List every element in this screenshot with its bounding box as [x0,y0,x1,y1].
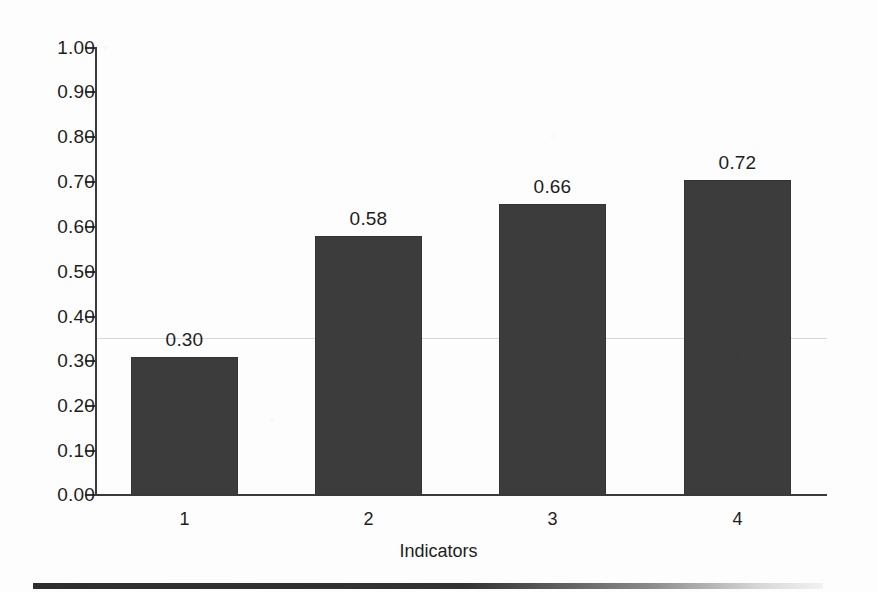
bar-1[interactable] [131,357,238,495]
y-tick-label: 0.00 [23,485,95,504]
bottom-rule [33,583,823,589]
bar-value-label-3: 0.66 [499,177,606,196]
bar-value-label-1: 0.30 [131,330,238,349]
y-tick-label: 0.10 [23,441,95,460]
bar-value-label-4: 0.72 [684,153,791,172]
x-tick-label-4: 4 [684,510,791,528]
bar-3[interactable] [499,204,606,495]
y-tick-label: 0.80 [23,127,95,146]
bar-4[interactable] [684,180,791,495]
y-tick-label: 0.30 [23,351,95,370]
x-axis-title: Indicators [0,542,877,560]
bar-value-label-2: 0.58 [315,209,422,228]
bar-2[interactable] [315,236,422,495]
y-tick-label: 0.60 [23,217,95,236]
x-tick-label-1: 1 [131,510,238,528]
y-tick-label: 0.40 [23,307,95,326]
y-tick-label: 0.20 [23,396,95,415]
y-tick-label: 0.70 [23,172,95,191]
x-tick-label-3: 3 [499,510,606,528]
bar-chart: 1.00 0.90 0.80 0.70 0.60 0.50 0.40 0.30 … [0,0,877,592]
chart-page: 1.00 0.90 0.80 0.70 0.60 0.50 0.40 0.30 … [0,0,877,592]
x-axis-line [95,494,827,496]
y-tick-label: 0.90 [23,82,95,101]
y-tick-label: 1.00 [23,38,95,57]
y-tick-label: 0.50 [23,262,95,281]
x-tick-label-2: 2 [315,510,422,528]
